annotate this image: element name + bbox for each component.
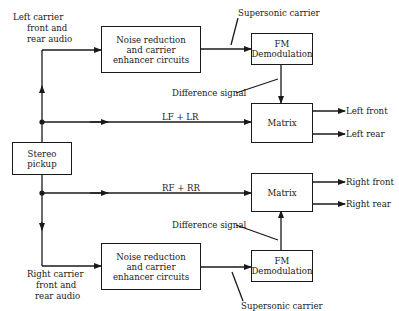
left-rear-label: Left rear [346,129,385,139]
matrix-top-block: Matrix [251,103,313,143]
difference-top-label: Difference signal [172,88,246,98]
matrix-bottom-label: Matrix [267,188,296,198]
right-carrier-label-2: front and [36,280,76,290]
fm-top-label: FM Demodulation [251,39,312,59]
fm-bottom-block: FM Demodulation [251,250,313,282]
difference-bottom-label: Difference signal [172,220,246,230]
nr-top-label: Noise reduction and carrier enhancer cir… [113,35,189,65]
rf-rr-label: RF + RR [162,183,200,193]
nr-bottom-block: Noise reduction and carrier enhancer cir… [101,243,201,290]
fm-bottom-label: FM Demodulation [251,256,312,276]
left-carrier-label-2: front and [27,23,67,33]
left-front-label: Left front [346,106,388,116]
junction-dot-top [39,119,44,124]
nr-top-block: Noise reduction and carrier enhancer cir… [101,26,201,73]
right-carrier-label-1: Right carrier [27,269,84,279]
right-front-label: Right front [346,177,394,187]
right-carrier-label-3: rear audio [35,291,80,301]
matrix-top-label: Matrix [267,118,296,128]
fm-top-block: FM Demodulation [251,33,313,65]
left-carrier-label-1: Left carrier [13,12,63,22]
lf-lr-label: LF + LR [162,112,199,122]
left-carrier-label-3: rear audio [27,34,72,44]
supersonic-bottom-label: Supersonic carrier [241,301,323,311]
stereo-pickup-block: Stereo pickup [12,142,72,175]
junction-dot-bottom [39,190,44,195]
matrix-bottom-block: Matrix [251,173,313,212]
right-rear-label: Right rear [346,199,391,209]
stereo-pickup-label: Stereo pickup [27,149,56,169]
nr-bottom-label: Noise reduction and carrier enhancer cir… [113,252,189,282]
supersonic-top-label: Supersonic carrier [238,8,320,18]
